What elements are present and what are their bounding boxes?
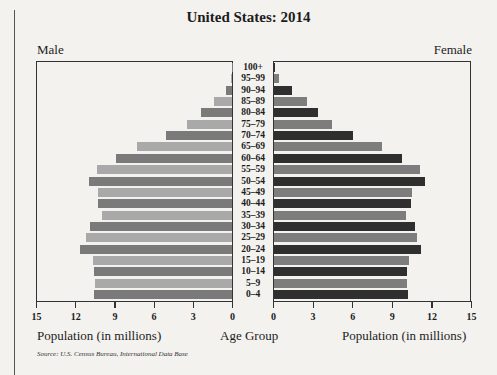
male-bar xyxy=(201,108,232,117)
x-tick-label: 0 xyxy=(264,311,284,322)
x-tick-label: 3 xyxy=(303,311,323,322)
female-bar xyxy=(274,74,279,83)
x-tick xyxy=(273,302,274,308)
male-bar xyxy=(137,142,232,151)
male-bar xyxy=(89,177,233,186)
age-group-label: 35–39 xyxy=(233,210,273,221)
x-tick-label: 15 xyxy=(462,311,482,322)
male-bar xyxy=(226,86,233,95)
female-bar xyxy=(274,177,426,186)
age-group-label: 90–94 xyxy=(233,85,273,96)
age-group-label: 85–89 xyxy=(233,96,273,107)
male-label: Male xyxy=(37,42,64,58)
x-tick xyxy=(114,302,115,308)
x-tick-label: 6 xyxy=(144,311,164,322)
source-note: Source: U.S. Census Bureau, Internationa… xyxy=(37,350,188,358)
female-bar xyxy=(274,222,415,231)
male-bar xyxy=(93,256,233,265)
female-bar xyxy=(274,256,410,265)
age-group-label: 25–29 xyxy=(233,232,273,243)
x-tick xyxy=(193,302,194,308)
female-bar xyxy=(274,120,332,129)
male-bar xyxy=(102,211,233,220)
female-bar xyxy=(274,108,319,117)
age-group-label: 80–84 xyxy=(233,107,273,118)
female-bar xyxy=(274,154,402,163)
male-bar xyxy=(90,222,232,231)
x-tick-label: 6 xyxy=(343,311,363,322)
female-bar xyxy=(274,290,409,299)
male-bar xyxy=(80,245,233,254)
female-bar xyxy=(274,267,407,276)
x-tick xyxy=(75,302,76,308)
age-group-label: 40–44 xyxy=(233,198,273,209)
x-tick-label: 9 xyxy=(382,311,402,322)
x-tick xyxy=(392,302,393,308)
male-bar xyxy=(166,131,233,140)
age-group-label: 50–54 xyxy=(233,176,273,187)
male-bar xyxy=(97,165,233,174)
age-group-label: 55–59 xyxy=(233,164,273,175)
age-group-label: 5–9 xyxy=(233,278,273,289)
age-group-label: 95–99 xyxy=(233,73,273,84)
female-bar xyxy=(274,165,421,174)
age-group-label: 75–79 xyxy=(233,119,273,130)
x-tick-label: 12 xyxy=(422,311,442,322)
female-x-axis xyxy=(273,301,472,302)
x-tick xyxy=(232,302,233,308)
female-bar xyxy=(274,245,422,254)
male-bar xyxy=(214,97,232,106)
x-tick-label: 0 xyxy=(223,311,243,322)
male-axis-title: Population (in millions) xyxy=(37,328,161,344)
age-group-title: Age Group xyxy=(220,328,278,344)
male-bar xyxy=(98,199,233,208)
age-group-label: 15–19 xyxy=(233,255,273,266)
age-group-label: 100+ xyxy=(233,62,273,73)
male-bar xyxy=(94,267,233,276)
age-group-label: 60–64 xyxy=(233,153,273,164)
x-tick-label: 12 xyxy=(66,311,86,322)
x-tick xyxy=(352,302,353,308)
male-bar xyxy=(98,188,233,197)
x-tick xyxy=(471,302,472,308)
age-group-label: 20–24 xyxy=(233,244,273,255)
page-margin-rule xyxy=(14,10,15,375)
x-tick xyxy=(36,302,37,308)
female-bar xyxy=(274,86,292,95)
x-tick xyxy=(431,302,432,308)
female-bar xyxy=(274,142,382,151)
male-x-axis xyxy=(36,301,233,302)
x-tick-label: 15 xyxy=(27,311,47,322)
female-bar xyxy=(274,131,353,140)
age-group-label: 70–74 xyxy=(233,130,273,141)
female-axis-title: Population (in millions) xyxy=(342,328,466,344)
x-tick-label: 9 xyxy=(105,311,125,322)
chart-title: United States: 2014 xyxy=(0,9,497,26)
male-bar xyxy=(86,233,232,242)
female-bar xyxy=(274,188,413,197)
female-bar xyxy=(274,233,418,242)
x-tick xyxy=(154,302,155,308)
male-bar xyxy=(94,290,233,299)
age-group-label: 65–69 xyxy=(233,141,273,152)
x-tick-label: 3 xyxy=(183,311,203,322)
male-bar xyxy=(187,120,233,129)
female-bar xyxy=(274,199,411,208)
female-bar xyxy=(274,63,275,72)
female-bar xyxy=(274,97,307,106)
age-group-label: 30–34 xyxy=(233,221,273,232)
age-group-label: 0–4 xyxy=(233,289,273,300)
male-bar xyxy=(95,279,232,288)
age-group-label: 10–14 xyxy=(233,266,273,277)
female-label: Female xyxy=(434,42,472,58)
female-bar xyxy=(274,211,406,220)
x-tick xyxy=(313,302,314,308)
age-group-label: 45–49 xyxy=(233,187,273,198)
male-bar xyxy=(116,154,232,163)
female-bar xyxy=(274,279,407,288)
